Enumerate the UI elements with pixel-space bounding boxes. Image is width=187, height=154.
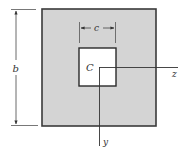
inner-hole: [79, 48, 116, 86]
b-label: b: [13, 63, 19, 74]
y-axis-label: y: [102, 137, 109, 147]
c-label: c: [94, 23, 99, 33]
z-axis-label: z: [171, 69, 177, 79]
cross-section-diagram: b c C z y: [0, 0, 187, 154]
centroid-label: C: [86, 62, 94, 73]
